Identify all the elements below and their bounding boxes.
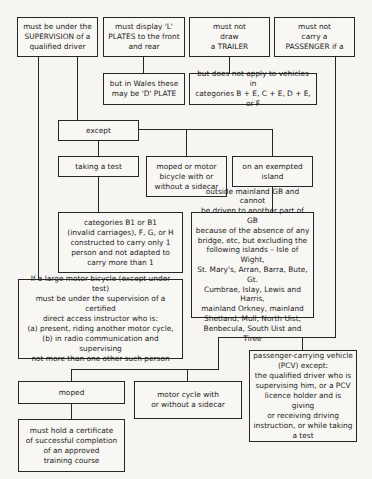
moped-box: moped xyxy=(18,381,125,404)
passenger-box: must not carry a PASSENGER if a xyxy=(274,17,355,57)
l-plates-box: must display 'L' PLATES to the front and… xyxy=(103,17,185,57)
outside-mainland-box: outside mainland GB and cannot be driven… xyxy=(191,212,314,318)
trailer-exception-box: but does not apply to vehicles in catego… xyxy=(189,73,317,105)
connector xyxy=(138,129,273,130)
certificate-box: must hold a certificate of successful co… xyxy=(18,419,125,472)
supervision-box: must be under the SUPERVISION of a quali… xyxy=(17,17,98,57)
scan-bleed-through xyxy=(20,1,350,9)
connector xyxy=(77,56,78,120)
connector xyxy=(187,369,188,381)
connector xyxy=(71,369,219,370)
connector xyxy=(186,129,187,156)
categories-b1-box: categories B1 or B1 (invalid carriages),… xyxy=(58,212,183,273)
trailer-box: must not draw a TRAILER xyxy=(189,17,270,57)
connector xyxy=(38,56,39,279)
except-box: except xyxy=(58,120,139,141)
connector xyxy=(98,176,99,212)
connector xyxy=(98,140,99,156)
large-motor-bicycle-box: If a large motor bicycle (except under t… xyxy=(18,279,183,359)
connector xyxy=(71,369,72,381)
connector xyxy=(272,129,273,156)
connector xyxy=(71,403,72,419)
taking-test-box: taking a test xyxy=(58,156,139,177)
pcv-box: passenger-carrying vehicle (PCV) except:… xyxy=(249,350,357,442)
wales-box: but in Wales these may be 'D' PLATE xyxy=(103,73,185,105)
connector xyxy=(335,56,336,338)
exempted-island-box: on an exempted island xyxy=(232,156,313,187)
motor-cycle-sidecar-box: motor cycle with or without a sidecar xyxy=(134,381,242,419)
connector xyxy=(143,56,144,73)
